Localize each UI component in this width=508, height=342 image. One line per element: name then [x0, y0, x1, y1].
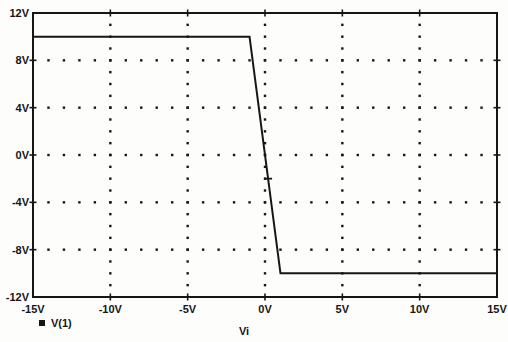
legend: V(1) [39, 317, 72, 329]
y-tick-label: -4V [0, 196, 29, 208]
y-tick-label: 0V [0, 149, 29, 161]
plot-canvas [0, 0, 508, 342]
y-tick-label: 8V [0, 54, 29, 66]
y-tick-label: 4V [0, 102, 29, 114]
y-tick-label: 12V [0, 7, 29, 19]
x-tick-label: -15V [8, 303, 58, 315]
y-tick-label: -8V [0, 244, 29, 256]
legend-square-marker-icon [39, 320, 45, 326]
x-tick-label: 10V [395, 303, 445, 315]
y-tick-label: -12V [0, 291, 29, 303]
x-tick-label: -5V [163, 303, 213, 315]
x-tick-label: 5V [317, 303, 367, 315]
x-tick-label: 15V [472, 303, 508, 315]
x-axis-title: Vi [214, 325, 274, 337]
x-tick-label: 0V [240, 303, 290, 315]
x-tick-label: -10V [85, 303, 135, 315]
legend-series-label: V(1) [51, 317, 72, 329]
transfer-characteristic-plot: 12V8V4V0V-4V-8V-12V -15V-10V-5V0V5V10V15… [0, 0, 508, 342]
